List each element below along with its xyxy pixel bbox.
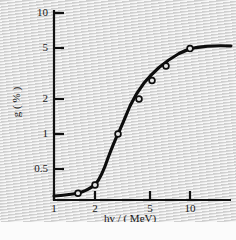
chart-plot-area — [0, 0, 236, 240]
data-curve — [54, 46, 231, 196]
data-point-markers — [75, 46, 193, 196]
figure-container: 10 5 2 1 0.5 1 2 5 10 hv / ( MeV) g ( % … — [0, 0, 236, 240]
data-point — [115, 131, 121, 137]
y-tick-label-10: 10 — [14, 7, 48, 18]
data-point — [75, 190, 81, 196]
data-point — [163, 63, 169, 69]
data-point — [92, 182, 98, 188]
data-point — [149, 78, 155, 84]
y-tick-label-0-5: 0.5 — [10, 163, 48, 174]
axes — [54, 10, 231, 201]
y-axis-ticks — [54, 13, 64, 169]
figure-bottom-margin — [0, 222, 236, 240]
data-point — [136, 96, 142, 102]
data-point — [187, 46, 193, 52]
y-tick-label-5: 5 — [14, 42, 48, 53]
y-axis-title: g ( % ) — [10, 72, 22, 132]
